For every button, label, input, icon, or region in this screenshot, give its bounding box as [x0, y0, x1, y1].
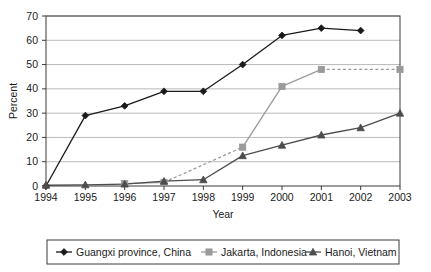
chart-canvas: 010203040506070 199419951996199719981999…	[0, 0, 431, 272]
legend-item[interactable]: Jakarta, Indonesia	[201, 246, 307, 258]
x-tick-label: 1994	[34, 191, 58, 203]
series-segment	[321, 28, 360, 30]
y-axis-tick-marks	[42, 16, 46, 186]
series-lines	[46, 28, 400, 186]
x-tick-label: 1998	[192, 191, 216, 203]
series-segment	[85, 184, 124, 185]
x-tick-label: 2002	[349, 191, 373, 203]
line-chart: 010203040506070 199419951996199719981999…	[0, 0, 431, 272]
plot-area-border	[46, 16, 400, 186]
data-point-square	[279, 83, 285, 89]
y-tick-label: 30	[26, 107, 38, 119]
legend-item-label: Jakarta, Indonesia	[221, 246, 307, 258]
data-point-diamond	[61, 249, 68, 256]
data-point-square	[318, 66, 324, 72]
series-segment	[203, 156, 242, 180]
x-axis-tick-labels: 1994199519961997199819992000200120022003	[34, 191, 412, 203]
x-axis-tick-marks	[46, 186, 400, 190]
series-segment	[361, 113, 400, 128]
y-axis-tick-labels: 010203040506070	[26, 10, 38, 192]
y-tick-label: 60	[26, 34, 38, 46]
x-tick-label: 1997	[152, 191, 176, 203]
y-tick-label: 10	[26, 155, 38, 167]
x-tick-label: 2003	[388, 191, 412, 203]
legend-item[interactable]: Hanoi, Vietnam	[305, 246, 397, 258]
legend-item-label: Guangxi province, China	[76, 246, 191, 258]
gridlines	[46, 16, 400, 162]
series-segment	[321, 128, 360, 135]
data-point-square	[206, 249, 212, 255]
data-point-diamond	[357, 27, 364, 34]
series-segment	[282, 135, 321, 145]
plot-border	[46, 16, 400, 186]
x-tick-label: 2001	[310, 191, 334, 203]
y-tick-label: 50	[26, 58, 38, 70]
legend-item-label: Hanoi, Vietnam	[325, 246, 397, 258]
data-point-diamond	[318, 25, 325, 32]
series-segment	[125, 91, 164, 106]
x-tick-label: 1996	[113, 191, 137, 203]
series-segment	[203, 65, 242, 92]
data-point-square	[240, 144, 246, 150]
data-point-diamond	[121, 102, 128, 109]
y-axis-title: Percent	[7, 83, 19, 119]
series-segment	[243, 86, 282, 147]
series-segment	[282, 69, 321, 86]
series-segment	[243, 35, 282, 64]
y-tick-label: 20	[26, 131, 38, 143]
series-segment	[282, 28, 321, 35]
chart-legend: Guangxi province, ChinaJakarta, Indonesi…	[47, 240, 399, 264]
series-markers	[42, 25, 403, 190]
series-segment	[46, 116, 85, 186]
x-axis-title: Year	[212, 208, 234, 220]
series-segment	[243, 145, 282, 155]
x-tick-label: 1995	[74, 191, 98, 203]
x-tick-label: 2000	[270, 191, 294, 203]
y-tick-label: 70	[26, 10, 38, 22]
x-tick-label: 1999	[231, 191, 255, 203]
legend-item[interactable]: Guangxi province, China	[56, 246, 191, 258]
data-point-square	[397, 66, 403, 72]
series-segment	[85, 106, 124, 116]
y-tick-label: 40	[26, 82, 38, 94]
y-tick-label: 0	[32, 180, 38, 192]
